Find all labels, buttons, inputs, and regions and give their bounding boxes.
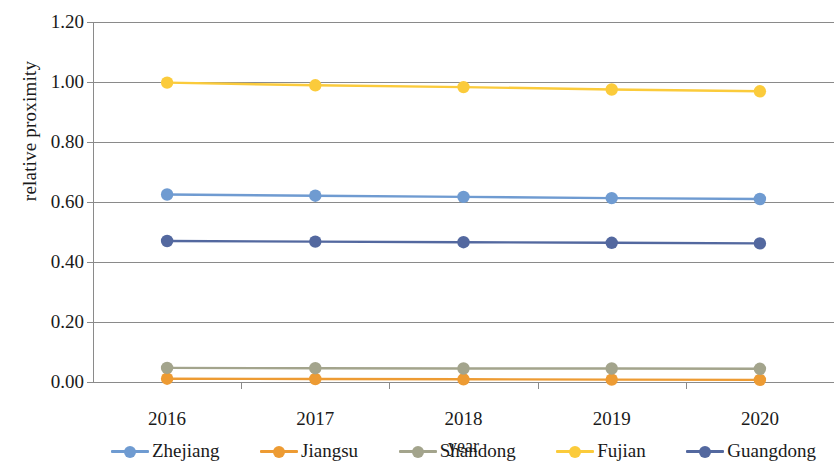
series-guangdong	[161, 235, 766, 250]
data-point	[161, 373, 173, 385]
plot-area: 0.000.200.400.600.801.001.20 20162017201…	[93, 22, 834, 382]
series-zhejiang	[161, 188, 766, 205]
legend-item-guangdong[interactable]: Guangdong	[686, 440, 816, 462]
data-point	[161, 188, 173, 200]
data-point	[309, 235, 321, 247]
y-tick-label: 0.20	[51, 311, 84, 333]
data-point	[457, 191, 469, 203]
legend-swatch-icon	[111, 443, 149, 459]
data-point	[606, 362, 618, 374]
data-point	[309, 190, 321, 202]
legend-swatch-icon	[260, 443, 298, 459]
legend-item-shandong[interactable]: Shandong	[399, 440, 516, 462]
data-point	[606, 83, 618, 95]
data-point	[457, 81, 469, 93]
data-point	[457, 362, 469, 374]
legend-label: Jiangsu	[300, 440, 358, 462]
data-point	[754, 363, 766, 375]
legend-label: Zhejiang	[151, 440, 220, 462]
y-tick-label: 1.00	[51, 71, 84, 93]
chart-legend: ZhejiangJiangsuShandongFujianGuangdong	[93, 440, 834, 462]
series-layer	[93, 22, 834, 382]
data-point	[754, 85, 766, 97]
y-tick-label: 0.00	[51, 371, 84, 393]
data-point	[606, 237, 618, 249]
legend-item-jiangsu[interactable]: Jiangsu	[260, 440, 358, 462]
x-tick-label: 2019	[593, 408, 631, 430]
x-tick-label: 2020	[741, 408, 779, 430]
y-tick-label: 0.60	[51, 191, 84, 213]
legend-swatch-icon	[686, 443, 724, 459]
y-tick-label: 1.20	[51, 11, 84, 33]
x-tick-label: 2018	[445, 408, 483, 430]
series-shandong	[161, 362, 766, 375]
data-point	[161, 235, 173, 247]
data-point	[606, 373, 618, 385]
y-axis-title: relative proximity	[19, 31, 41, 231]
x-tick-label: 2017	[296, 408, 334, 430]
data-point	[754, 237, 766, 249]
data-point	[309, 362, 321, 374]
data-point	[161, 76, 173, 88]
y-tick-label: 0.40	[51, 251, 84, 273]
data-point	[457, 373, 469, 385]
x-tick-mark	[538, 382, 539, 389]
legend-label: Shandong	[439, 440, 516, 462]
data-point	[754, 374, 766, 386]
data-point	[457, 236, 469, 248]
legend-item-zhejiang[interactable]: Zhejiang	[111, 440, 220, 462]
y-tick-label: 0.80	[51, 131, 84, 153]
legend-item-fujian[interactable]: Fujian	[556, 440, 646, 462]
legend-swatch-icon	[399, 443, 437, 459]
legend-label: Guangdong	[726, 440, 816, 462]
x-tick-label: 2016	[148, 408, 186, 430]
line-chart: relative proximity 0.000.200.400.600.801…	[0, 0, 834, 470]
data-point	[309, 373, 321, 385]
data-point	[309, 79, 321, 91]
x-tick-mark	[389, 382, 390, 389]
series-fujian	[161, 76, 766, 97]
x-tick-mark	[241, 382, 242, 389]
data-point	[606, 192, 618, 204]
data-point	[754, 193, 766, 205]
legend-swatch-icon	[556, 443, 594, 459]
x-tick-mark	[686, 382, 687, 389]
y-tick-mark	[87, 382, 93, 383]
legend-label: Fujian	[596, 440, 646, 462]
data-point	[161, 362, 173, 374]
